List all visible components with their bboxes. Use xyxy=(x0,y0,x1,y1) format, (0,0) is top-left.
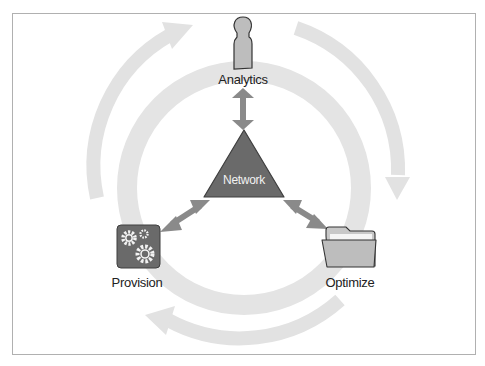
network-node: Network xyxy=(204,130,284,197)
analytics-label: Analytics xyxy=(218,72,268,87)
provision-node: Provision xyxy=(112,225,163,290)
connector-network-optimize xyxy=(283,200,328,229)
provision-label: Provision xyxy=(112,275,163,290)
optimize-node: Optimize xyxy=(322,227,376,290)
connector-network-provision xyxy=(160,200,210,232)
network-label: Network xyxy=(223,173,266,187)
cycle-arrow-top-left xyxy=(93,22,193,198)
optimize-label: Optimize xyxy=(326,275,375,290)
cycle-diagram: Network Analytics Provision Optimize xyxy=(0,0,485,366)
person-icon xyxy=(234,17,252,69)
folder-icon xyxy=(322,227,376,267)
gears-icon xyxy=(117,225,160,268)
analytics-node: Analytics xyxy=(218,17,268,87)
connector-network-analytics xyxy=(232,88,254,130)
